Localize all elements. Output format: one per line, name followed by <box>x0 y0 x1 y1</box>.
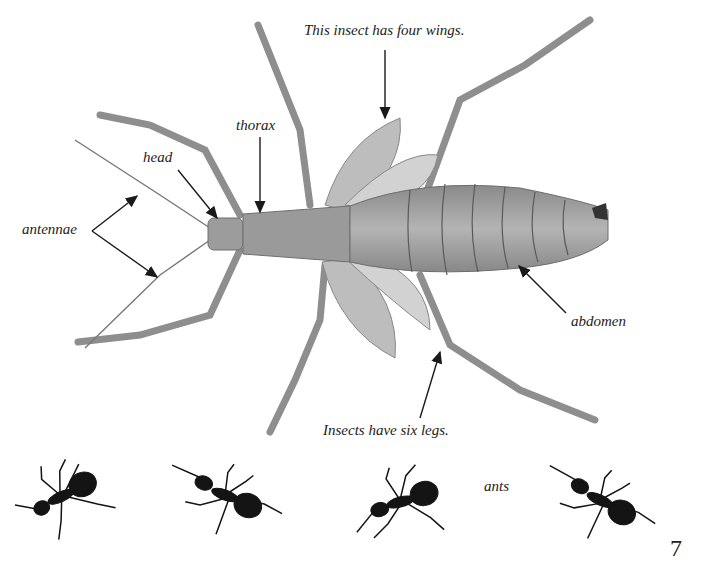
ants-row <box>5 444 668 561</box>
insect-body <box>208 184 608 275</box>
ants-label: ants <box>484 478 509 495</box>
page-number: 7 <box>670 535 682 562</box>
book-page: This insect has four wings. thorax head … <box>0 0 703 577</box>
abdomen-arrow <box>519 266 566 313</box>
ant-4 <box>529 446 668 562</box>
abdomen-label: abdomen <box>571 313 626 330</box>
legs-arrow <box>420 352 440 418</box>
antennae-arrow-upper <box>92 196 137 231</box>
thorax-label: thorax <box>236 117 275 134</box>
insect-illustration <box>0 0 703 577</box>
wings-caption: This insect has four wings. <box>304 22 464 39</box>
antennae-arrow-lower <box>92 231 157 277</box>
ant-3 <box>343 457 448 552</box>
legs-caption: Insects have six legs. <box>323 422 449 439</box>
head-label: head <box>143 149 172 166</box>
antennae-label: antennae <box>22 221 77 238</box>
ant-1 <box>5 445 118 550</box>
ant-2 <box>155 444 292 553</box>
insect-antennae <box>75 140 210 348</box>
